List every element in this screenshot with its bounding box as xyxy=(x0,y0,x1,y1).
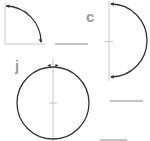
arrow-start-icon xyxy=(110,2,114,6)
figure-label-j: j xyxy=(15,58,19,73)
diagram-canvas xyxy=(0,0,150,141)
quarter-arc xyxy=(6,6,41,42)
half-turn-figure xyxy=(105,1,147,81)
arrow-end-icon xyxy=(55,64,59,67)
figure-label-c: c xyxy=(86,9,94,24)
half-arc xyxy=(111,4,147,77)
arrow-end-icon xyxy=(39,39,43,43)
arrow-end-icon xyxy=(110,75,114,79)
arrow-start-icon xyxy=(47,64,51,67)
quarter-turn-figure xyxy=(5,3,45,44)
arrow-start-icon xyxy=(6,4,10,7)
full-turn-figure xyxy=(17,59,89,141)
